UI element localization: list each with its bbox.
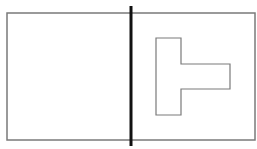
diagram-canvas (0, 0, 257, 149)
t-shape (156, 38, 230, 115)
